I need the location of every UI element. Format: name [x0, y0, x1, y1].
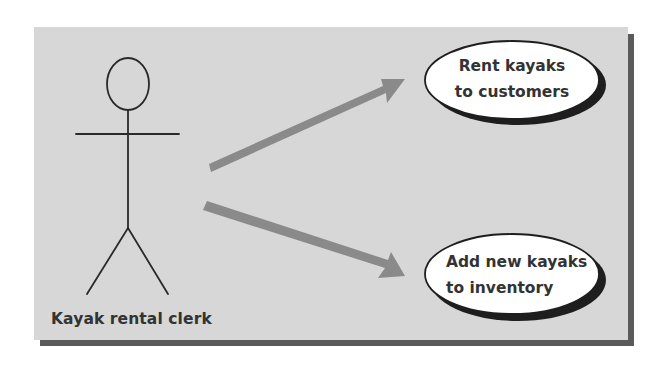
- actor-right-leg: [128, 228, 168, 294]
- use-case-label-rent: Rent kayaks to customers: [447, 53, 577, 105]
- actor-left-leg: [87, 228, 128, 294]
- use-case-rent-line-2: to customers: [447, 79, 577, 105]
- use-case-add-line-1: Add new kayaks: [446, 249, 587, 275]
- use-case-diagram: Kayak rental clerk Rent kayaks to custom…: [0, 0, 667, 367]
- association-arrow-rent: [209, 79, 405, 172]
- use-case-add-line-2: to inventory: [446, 275, 587, 301]
- actor-label: Kayak rental clerk: [51, 310, 212, 328]
- stick-figure-icon: [76, 58, 179, 294]
- use-case-label-add: Add new kayaks to inventory: [446, 249, 587, 301]
- use-case-rent-line-1: Rent kayaks: [447, 53, 577, 79]
- actor-head: [107, 58, 149, 110]
- association-arrow-add: [203, 201, 405, 278]
